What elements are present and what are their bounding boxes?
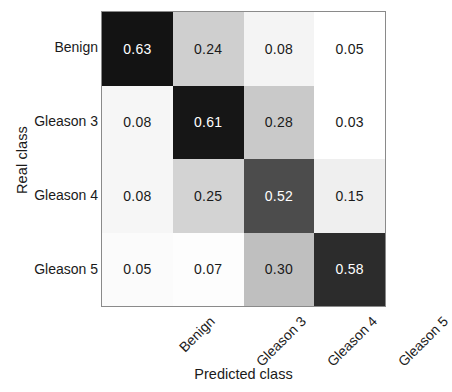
heatmap-cell-value: 0.15 (336, 188, 364, 204)
heatmap-cell: 0.08 (244, 12, 315, 86)
heatmap-cell: 0.63 (102, 12, 173, 86)
y-tick-0: Benign (6, 39, 98, 55)
heatmap-cell: 0.30 (244, 233, 315, 307)
heatmap-cell: 0.52 (244, 159, 315, 233)
heatmap-cell-value: 0.24 (194, 41, 222, 57)
heatmap-cell-value: 0.08 (265, 41, 293, 57)
heatmap-grid: 0.630.240.080.050.080.610.280.030.080.25… (101, 11, 386, 307)
heatmap-cell-value: 0.07 (194, 261, 222, 277)
heatmap-cell: 0.05 (102, 233, 173, 307)
heatmap-cell-value: 0.25 (194, 188, 222, 204)
y-tick-3: Gleason 5 (6, 261, 98, 277)
heatmap-cell-value: 0.30 (265, 261, 293, 277)
y-tick-1: Gleason 3 (6, 113, 98, 129)
y-tick-2: Gleason 4 (6, 187, 98, 203)
x-tick-2: Gleason 4 (324, 313, 380, 369)
heatmap-cell-value: 0.08 (123, 114, 151, 130)
heatmap-cell: 0.08 (102, 159, 173, 233)
heatmap-cell: 0.28 (244, 86, 315, 160)
heatmap-cell-value: 0.05 (336, 41, 364, 57)
heatmap-cell-value: 0.52 (265, 188, 293, 204)
heatmap-cell: 0.08 (102, 86, 173, 160)
x-tick-1: Gleason 3 (253, 313, 309, 369)
heatmap-cell: 0.58 (314, 233, 385, 307)
x-axis-tick-labels: BenignGleason 3Gleason 4Gleason 5 (101, 307, 386, 365)
heatmap-cell-value: 0.63 (123, 41, 151, 57)
heatmap-cell-value: 0.58 (336, 261, 364, 277)
y-axis-tick-labels: BenignGleason 3Gleason 4Gleason 5 (2, 11, 98, 307)
heatmap-cell: 0.05 (314, 12, 385, 86)
heatmap-cell: 0.61 (173, 86, 244, 160)
x-tick-0: Benign (175, 313, 217, 355)
x-tick-3: Gleason 5 (395, 313, 451, 369)
heatmap-cell: 0.07 (173, 233, 244, 307)
heatmap-cell: 0.24 (173, 12, 244, 86)
heatmap-cell-value: 0.28 (265, 114, 293, 130)
heatmap-cell: 0.03 (314, 86, 385, 160)
heatmap-cell-value: 0.08 (123, 188, 151, 204)
heatmap-cell-value: 0.05 (123, 261, 151, 277)
heatmap-cell-value: 0.03 (336, 114, 364, 130)
heatmap-cell: 0.25 (173, 159, 244, 233)
heatmap-cell-value: 0.61 (194, 114, 222, 130)
x-axis-label: Predicted class (101, 366, 386, 382)
heatmap-cell: 0.15 (314, 159, 385, 233)
